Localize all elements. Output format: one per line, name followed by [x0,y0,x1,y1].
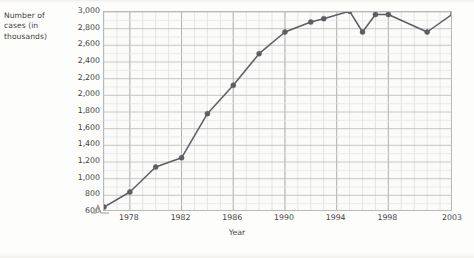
data-series-line [104,12,452,211]
data-point [282,30,287,35]
data-point [373,12,378,17]
data-point [386,12,391,17]
data-point [153,165,158,170]
x-axis-tick-labels: 1978198219861990199419982003 [103,213,452,227]
y-axis-tick-labels: 3,0002,8002,6002,4002,2002,0001,8001,600… [56,11,100,211]
page-edge-shadow-bottom [0,252,474,258]
data-point [308,20,313,25]
x-axis-tick-label: 1990 [274,213,294,223]
x-axis-tick-label: 1982 [171,213,191,223]
x-axis-tick-label: 1986 [222,213,242,223]
x-axis-title: Year [0,228,474,237]
data-point [205,111,210,116]
y-axis-tick-label: 2,400 [56,57,100,65]
data-point [127,190,132,195]
x-axis-tick-label: 2003 [442,213,462,223]
data-point [425,30,430,35]
data-point [360,30,365,35]
y-axis-tick-label: 1,400 [56,140,100,148]
y-axis-tick-label: 1,600 [56,124,100,132]
y-axis-tick-label: 1,000 [56,174,100,182]
chart-figure: Number of cases (in thousands) 3,0002,80… [0,0,474,258]
y-axis-tick-label: 1,800 [56,107,100,115]
y-axis-tick-label: 3,000 [56,7,100,15]
y-axis-tick-label: 1,200 [56,157,100,165]
data-point [179,155,184,160]
plot-area [103,11,452,211]
data-point [231,83,236,88]
x-axis-tick-label: 1998 [377,213,397,223]
page-edge-shadow-top [0,0,474,3]
data-point [321,16,326,21]
data-point [257,51,262,56]
y-axis-tick-label: 2,200 [56,74,100,82]
x-axis-tick-label: 1978 [119,213,139,223]
x-axis-tick-label: 1994 [326,213,346,223]
y-axis-tick-label: 2,000 [56,90,100,98]
y-axis-tick-label: 2,800 [56,24,100,32]
y-axis-tick-label: 2,600 [56,40,100,48]
y-axis-tick-label: 800 [56,190,100,198]
